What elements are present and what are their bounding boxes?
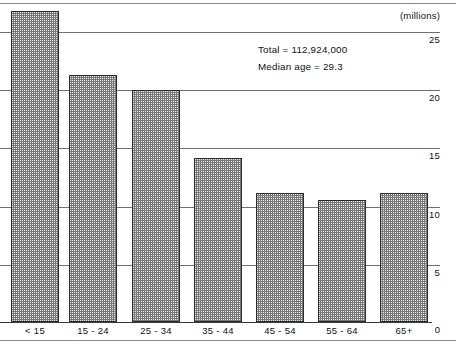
annotation-median-age: Median age = 29.3 (258, 58, 347, 75)
x-tick-label-under-15: < 15 (11, 325, 59, 337)
bar-15-24 (69, 75, 117, 322)
bar-55-64 (318, 200, 366, 322)
y-tick-label-15: 15 (412, 150, 440, 161)
x-tick-label-25-34: 25 - 34 (132, 325, 180, 337)
bar-25-34 (132, 90, 180, 322)
bar-45-54 (256, 193, 304, 322)
chart-annotation-block: Total = 112,924,000 Median age = 29.3 (258, 41, 347, 75)
x-tick-label-55-64: 55 - 64 (318, 325, 366, 337)
gridline-15: 15 (0, 148, 440, 149)
x-tick-label-35-44: 35 - 44 (194, 325, 242, 337)
x-tick-label-15-24: 15 - 24 (69, 325, 117, 337)
x-axis-baseline (0, 322, 432, 323)
y-tick-label-25: 25 (412, 34, 440, 45)
age-distribution-bar-chart: (millions) 25 20 15 10 5 0 < 15 15 - 24 (0, 0, 456, 343)
y-axis-units-label: (millions) (400, 10, 440, 21)
gridline-20: 20 (0, 90, 440, 91)
x-tick-label-45-54: 45 - 54 (256, 325, 304, 337)
annotation-total: Total = 112,924,000 (258, 41, 347, 58)
y-tick-label-20: 20 (412, 92, 440, 103)
plot-area: (millions) 25 20 15 10 5 0 < 15 15 - 24 (0, 0, 456, 343)
x-tick-label-65-plus: 65+ (380, 325, 428, 337)
bar-65-plus (380, 193, 428, 322)
gridline-25: 25 (0, 32, 440, 33)
bar-under-15 (11, 11, 59, 322)
bar-35-44 (194, 158, 242, 322)
